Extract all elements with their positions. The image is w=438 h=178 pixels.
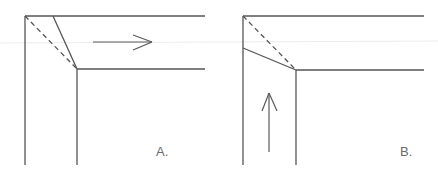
diagram-canvas: [0, 0, 438, 178]
arrow-up-icon: [262, 93, 277, 152]
panel-a: [25, 16, 205, 165]
panel-b-dashed-diagonal: [243, 16, 296, 70]
panel-b-solid-cut-line: [243, 48, 296, 70]
panel-a-label: A.: [156, 144, 168, 159]
panel-b-label: B.: [400, 144, 412, 159]
arrow-right-icon: [93, 35, 152, 50]
panel-b: [243, 16, 424, 165]
